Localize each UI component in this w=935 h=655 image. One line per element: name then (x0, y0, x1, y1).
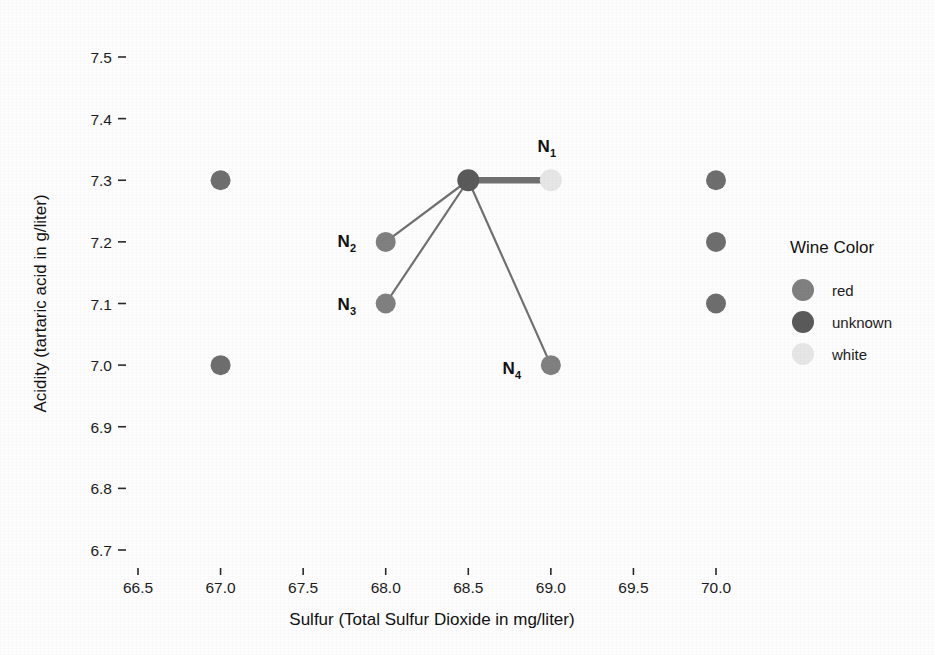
node-label-base: N (503, 359, 515, 378)
x-tick-label: 70.0 (701, 579, 732, 596)
scatter-point[interactable] (706, 294, 726, 314)
y-axis-title: Acidity (tartaric acid in g/liter) (31, 194, 50, 412)
x-tick-label: 66.5 (123, 579, 153, 596)
node-label-base: N (538, 137, 550, 156)
scatter-point[interactable] (540, 169, 562, 191)
x-tick-label: 67.5 (288, 579, 318, 596)
graph-edge (386, 180, 469, 303)
y-tick-label: 7.4 (90, 111, 112, 128)
node-label: N4 (503, 359, 522, 381)
y-tick-label: 7.0 (90, 357, 112, 374)
node-label-subscript: 1 (550, 147, 556, 159)
legend-swatch[interactable] (792, 279, 814, 301)
x-tick-label: 68.5 (453, 579, 483, 596)
y-tick-label: 6.9 (90, 419, 112, 436)
node-label: N1 (538, 137, 556, 159)
scatter-plot: 66.567.067.568.068.569.069.570.0Sulfur (… (0, 0, 935, 655)
legend-swatch[interactable] (792, 311, 814, 333)
legend: Wine Colorredunknownwhite (790, 238, 892, 365)
x-tick-label: 68.0 (371, 579, 402, 596)
y-tick-label: 7.1 (90, 296, 112, 313)
node-label-subscript: 3 (350, 305, 356, 317)
graph-edge (386, 180, 469, 242)
node-label-base: N (338, 295, 350, 314)
y-tick-label: 7.5 (90, 49, 112, 66)
y-axis: 6.76.86.97.07.17.27.37.47.5Acidity (tart… (31, 49, 126, 559)
scatter-point[interactable] (457, 169, 479, 191)
chart-page: 66.567.067.568.068.569.069.570.0Sulfur (… (0, 0, 935, 655)
legend-swatch[interactable] (792, 343, 814, 365)
node-label: N3 (338, 295, 356, 317)
node-label: N2 (338, 232, 356, 254)
edge-layer (386, 180, 551, 365)
graph-edge (468, 180, 551, 365)
scatter-point[interactable] (541, 355, 561, 375)
scatter-point[interactable] (376, 294, 396, 314)
legend-label[interactable]: unknown (832, 314, 892, 331)
x-tick-label: 69.5 (618, 579, 648, 596)
legend-title: Wine Color (790, 238, 874, 257)
x-axis: 66.567.067.568.068.569.069.570.0Sulfur (… (123, 568, 732, 629)
y-tick-label: 6.8 (90, 480, 112, 497)
scatter-point[interactable] (376, 232, 396, 252)
x-axis-title: Sulfur (Total Sulfur Dioxide in mg/liter… (289, 610, 574, 629)
node-label-layer: N1N2N3N4 (338, 137, 556, 381)
y-tick-label: 7.3 (90, 172, 112, 189)
scatter-point[interactable] (211, 170, 231, 190)
scatter-point[interactable] (706, 170, 726, 190)
legend-label[interactable]: red (832, 282, 854, 299)
node-label-base: N (338, 232, 350, 251)
x-tick-label: 67.0 (205, 579, 236, 596)
y-tick-label: 7.2 (90, 234, 112, 251)
scatter-point[interactable] (706, 232, 726, 252)
node-label-subscript: 4 (515, 369, 522, 381)
node-label-subscript: 2 (350, 242, 356, 254)
legend-label[interactable]: white (831, 346, 867, 363)
point-layer (211, 169, 726, 375)
y-tick-label: 6.7 (90, 542, 112, 559)
x-tick-label: 69.0 (536, 579, 567, 596)
scatter-point[interactable] (211, 355, 231, 375)
